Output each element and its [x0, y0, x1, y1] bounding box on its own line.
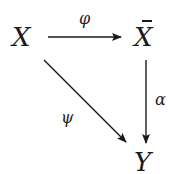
node-x: X: [12, 24, 31, 50]
label-psi: ψ: [61, 110, 74, 126]
label-phi: φ: [79, 11, 90, 27]
node-y: Y: [134, 149, 151, 174]
label-alpha: α: [155, 92, 166, 108]
x-bar-overline: [142, 20, 152, 22]
node-x-bar: X: [134, 24, 153, 50]
arrow-psi: [44, 60, 126, 142]
